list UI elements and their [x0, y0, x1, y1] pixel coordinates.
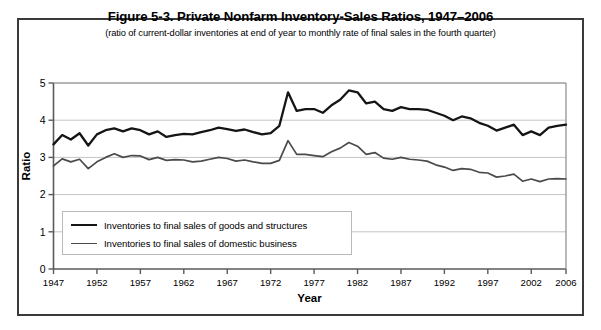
chart-svg: 0123451947195219571962196719721977198219…: [0, 0, 601, 330]
x-tick-label: 1972: [260, 277, 281, 288]
legend-item-label: Inventories to final sales of goods and …: [104, 220, 307, 231]
x-tick-label: 1977: [303, 277, 324, 288]
legend-item-label: Inventories to final sales of domestic b…: [104, 238, 297, 249]
y-axis-title: Ratio: [20, 126, 32, 206]
x-tick-label: 1997: [477, 277, 498, 288]
x-tick-label: 1967: [217, 277, 238, 288]
series-line-1: [54, 141, 567, 182]
y-tick-label: 3: [40, 151, 46, 163]
y-tick-label: 2: [40, 188, 46, 200]
plot-area: 0123451947195219571962196719721977198219…: [0, 0, 601, 330]
x-tick-label: 1962: [173, 277, 194, 288]
y-tick-label: 4: [40, 114, 46, 126]
x-tick-label: 1982: [347, 277, 368, 288]
x-tick-label: 1992: [434, 277, 455, 288]
x-tick-label: 2006: [555, 277, 576, 288]
y-tick-label: 1: [40, 226, 46, 238]
chart-legend: Inventories to final sales of goods and …: [62, 211, 352, 255]
x-tick-label: 1952: [86, 277, 107, 288]
y-tick-label: 0: [40, 263, 46, 275]
y-tick-label: 5: [40, 77, 46, 89]
legend-line-swatch-icon: [71, 243, 97, 244]
x-axis-title: Year: [53, 292, 566, 304]
legend-item-goods-structures: Inventories to final sales of goods and …: [69, 216, 351, 234]
x-tick-label: 1957: [130, 277, 151, 288]
series-line-0: [54, 90, 567, 145]
x-tick-label: 1947: [43, 277, 64, 288]
legend-item-domestic-business: Inventories to final sales of domestic b…: [69, 234, 351, 252]
x-tick-label: 1987: [390, 277, 411, 288]
legend-line-swatch-icon: [71, 224, 97, 226]
x-tick-label: 2002: [521, 277, 542, 288]
